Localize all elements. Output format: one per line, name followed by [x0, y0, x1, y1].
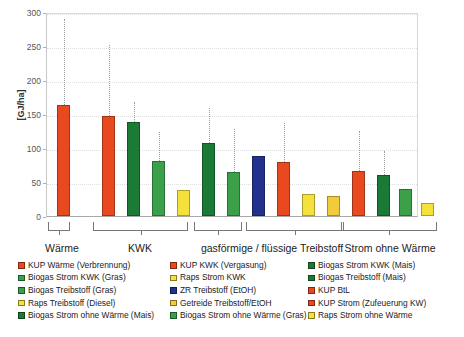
error-bar-whisker: [109, 45, 110, 116]
legend-item[interactable]: KUP Wärme (Verbrennung): [18, 259, 170, 272]
y-axis-tick-0: 0: [7, 213, 41, 221]
legend-item[interactable]: Raps Strom KWK: [170, 272, 308, 285]
bar-14[interactable]: [421, 203, 434, 216]
bar-0[interactable]: [57, 105, 70, 216]
legend-swatch-icon: [308, 275, 315, 282]
legend-label: Getreide Treibstoff/EtOH: [180, 299, 272, 308]
bar-5[interactable]: [202, 143, 215, 216]
y-axis-tick-300: 300: [7, 9, 41, 17]
legend-item[interactable]: Biogas Treibstoff (Mais): [308, 272, 460, 285]
legend-label: Biogas Strom ohne Wärme (Gras): [180, 311, 307, 320]
legend-label: ZR Treibstoff (EtOH): [180, 286, 256, 295]
bar-1[interactable]: [102, 116, 115, 216]
bar-12[interactable]: [377, 175, 390, 216]
legend-swatch-icon: [18, 287, 25, 294]
error-bar-whisker: [64, 19, 65, 105]
error-bar-whisker: [159, 132, 160, 161]
legend-item[interactable]: KUP Strom (Zufeuerung KW): [308, 297, 460, 310]
legend-label: KUP Wärme (Verbrennung): [28, 261, 130, 270]
legend-item[interactable]: Biogas Treibstoff (Gras): [18, 284, 170, 297]
legend-label: Biogas Strom ohne Wärme (Mais): [28, 311, 154, 320]
legend-item[interactable]: ZR Treibstoff (EtOH): [170, 284, 308, 297]
legend-column-1: KUP Wärme (Verbrennung)Biogas Strom KWK …: [18, 259, 170, 322]
legend-swatch-icon: [170, 275, 177, 282]
legend-item[interactable]: Getreide Treibstoff/EtOH: [170, 297, 308, 310]
legend-label: Raps Strom KWK: [180, 273, 246, 282]
legend-item[interactable]: Biogas Strom KWK (Mais): [308, 259, 460, 272]
legend-label: KUP Strom (Zufeuerung KW): [318, 299, 426, 308]
legend-item[interactable]: Biogas Strom ohne Wärme (Gras): [170, 309, 308, 322]
gridline: [47, 82, 417, 83]
plot-area: [46, 13, 418, 217]
legend-swatch-icon: [18, 300, 25, 307]
bar-6[interactable]: [227, 172, 240, 216]
legend-label: Biogas Strom KWK (Gras): [28, 273, 126, 282]
chart-legend: KUP Wärme (Verbrennung)Biogas Strom KWK …: [18, 259, 458, 325]
legend-item[interactable]: Biogas Strom KWK (Gras): [18, 272, 170, 285]
error-bar-whisker: [134, 102, 135, 122]
error-bar-whisker: [234, 129, 235, 173]
legend-swatch-icon: [308, 300, 315, 307]
legend-item[interactable]: KUP BtL: [308, 284, 460, 297]
group-bracket: [246, 222, 344, 231]
legend-swatch-icon: [18, 275, 25, 282]
error-bar-whisker: [284, 123, 285, 162]
group-bracket: [93, 222, 188, 231]
bar-13[interactable]: [399, 189, 412, 216]
legend-label: Raps Strom ohne Wärme: [318, 311, 413, 320]
error-bar-whisker: [209, 108, 210, 143]
legend-label: KUP KWK (Vergasung): [180, 261, 266, 270]
legend-swatch-icon: [170, 300, 177, 307]
group-bracket: [341, 222, 437, 231]
legend-swatch-icon: [170, 262, 177, 269]
legend-label: Raps Treibstoff (Diesel): [28, 299, 115, 308]
error-bar-whisker: [384, 151, 385, 175]
group-bracket: [48, 222, 70, 231]
y-axis-tick-150: 150: [7, 111, 41, 119]
y-axis-tick-50: 50: [7, 179, 41, 187]
legend-swatch-icon: [308, 287, 315, 294]
legend-swatch-icon: [18, 262, 25, 269]
legend-swatch-icon: [170, 287, 177, 294]
gridline: [47, 14, 417, 15]
bar-3[interactable]: [152, 161, 165, 216]
legend-item[interactable]: Raps Strom ohne Wärme: [308, 309, 460, 322]
group-label-3: Strom ohne Wärme: [280, 242, 464, 254]
legend-swatch-icon: [308, 312, 315, 319]
y-axis-tick-200: 200: [7, 77, 41, 85]
legend-label: Biogas Strom KWK (Mais): [318, 261, 415, 270]
legend-column-3: Biogas Strom KWK (Mais)Biogas Treibstoff…: [308, 259, 460, 322]
error-bar-whisker: [359, 131, 360, 171]
legend-swatch-icon: [170, 312, 177, 319]
legend-item[interactable]: KUP KWK (Vergasung): [170, 259, 308, 272]
legend-item[interactable]: Biogas Strom ohne Wärme (Mais): [18, 309, 170, 322]
bar-10[interactable]: [327, 196, 340, 216]
legend-swatch-icon: [308, 262, 315, 269]
bar-11[interactable]: [352, 171, 365, 216]
y-axis-tickmark: [43, 217, 46, 218]
legend-label: Biogas Treibstoff (Mais): [318, 273, 406, 282]
chart-root: [GJ/ha] 300250200150100500 WärmeKWKgasfö…: [0, 0, 464, 337]
legend-label: Biogas Treibstoff (Gras): [28, 286, 116, 295]
legend-label: KUP BtL: [318, 286, 350, 295]
gridline: [47, 48, 417, 49]
bar-9[interactable]: [302, 194, 315, 216]
bar-4[interactable]: [177, 190, 190, 216]
legend-swatch-icon: [18, 312, 25, 319]
y-axis-tick-250: 250: [7, 43, 41, 51]
y-axis-tick-100: 100: [7, 145, 41, 153]
bar-2[interactable]: [127, 122, 140, 216]
legend-item[interactable]: Raps Treibstoff (Diesel): [18, 297, 170, 310]
group-bracket: [194, 222, 242, 231]
bar-7[interactable]: [252, 156, 265, 216]
bar-8[interactable]: [277, 162, 290, 216]
legend-column-2: KUP KWK (Vergasung)Raps Strom KWKZR Trei…: [170, 259, 308, 322]
